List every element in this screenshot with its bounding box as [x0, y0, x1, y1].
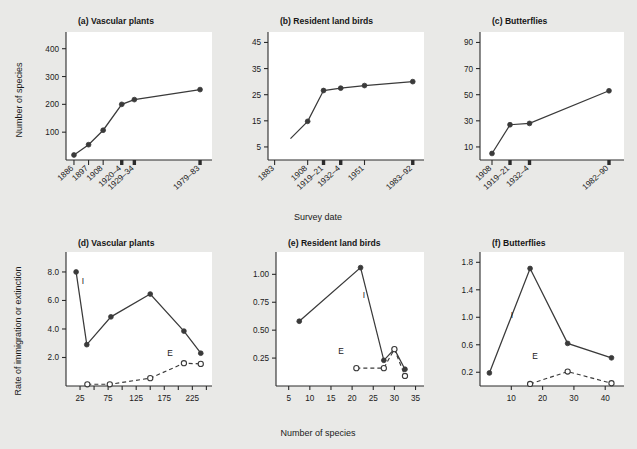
y-tick-label: 0.6: [462, 341, 474, 350]
y-tick-label: 5: [256, 143, 261, 152]
x-tick-label: 40: [601, 394, 611, 403]
data-point: [565, 341, 570, 346]
data-point: [565, 369, 570, 374]
y-tick-label: 0.2: [462, 368, 474, 377]
data-point: [381, 358, 386, 363]
plot-area: [66, 252, 212, 386]
data-point: [527, 121, 532, 126]
x-tick-label: 1983–92: [384, 163, 414, 191]
y-tick-label: 2.0: [48, 353, 60, 362]
y-tick-label: 400: [45, 45, 59, 54]
y-tick-label: 1.00: [253, 270, 269, 279]
data-point: [410, 79, 415, 84]
series-label-I: I: [511, 310, 513, 320]
x-tick-label: 1932–4: [505, 164, 532, 189]
series-label-E: E: [338, 346, 344, 356]
data-point: [148, 292, 153, 297]
data-point: [609, 381, 614, 386]
y-tick-label: 0.25: [253, 354, 269, 363]
figure-canvas: Number of species Rate of immigration or…: [0, 0, 637, 449]
x-tick-label: 125: [129, 394, 143, 403]
data-point: [86, 142, 91, 147]
y-tick-label: 0.50: [253, 326, 269, 335]
y-tick-label: 30: [464, 117, 474, 126]
data-point: [305, 119, 310, 124]
y-tick-label: 70: [464, 65, 474, 74]
data-point: [490, 151, 495, 156]
x-tick-label: 175: [157, 394, 171, 403]
data-point: [198, 361, 203, 366]
panel-title: (d) Vascular plants: [78, 238, 155, 248]
y-tick-label: 10: [464, 143, 474, 152]
data-point: [297, 319, 302, 324]
data-point: [354, 366, 359, 371]
data-point: [528, 266, 533, 271]
plot-area: [480, 252, 624, 386]
x-tick-label: 75: [104, 394, 114, 403]
panel-c-butterflies: (c) Butterflies103050709019081919–211932…: [440, 14, 637, 219]
data-point: [107, 382, 112, 387]
data-point: [181, 361, 186, 366]
data-point: [119, 102, 124, 107]
x-tick-label: 25: [75, 394, 85, 403]
y-tick-label: 0.75: [253, 298, 269, 307]
series-label-E: E: [532, 351, 538, 361]
data-point: [109, 314, 114, 319]
data-point: [358, 265, 363, 270]
data-point: [198, 351, 203, 356]
y-tick-label: 300: [45, 73, 59, 82]
data-point: [392, 347, 397, 352]
data-point: [527, 381, 532, 386]
data-point: [487, 371, 492, 376]
x-tick-label: 1982–90: [581, 163, 611, 191]
ylabel-bottom-row: Rate of immigration or extinction: [4, 250, 20, 410]
ylabel-top-row: Number of species: [4, 40, 20, 170]
data-point: [321, 88, 326, 93]
y-tick-label: 1.8: [462, 258, 474, 267]
panel-title: (c) Butterflies: [492, 16, 548, 26]
data-point: [101, 128, 106, 133]
y-tick-label: 15: [252, 117, 262, 126]
x-tick-label: 1883: [256, 164, 276, 183]
x-tick-label: 15: [326, 394, 336, 403]
data-point: [607, 88, 612, 93]
y-tick-label: 8.0: [48, 268, 60, 277]
x-tick-label: 20: [348, 394, 358, 403]
panel-title: (b) Resident land birds: [280, 16, 373, 26]
x-tick-label: 25: [369, 394, 379, 403]
plot-area: [268, 32, 424, 160]
x-tick-label: 225: [186, 394, 200, 403]
series-label-I: I: [363, 290, 365, 300]
x-tick-label: 35: [411, 394, 421, 403]
data-point: [72, 153, 77, 158]
panel-title: (f) Butterflies: [492, 238, 546, 248]
x-tick-label: 30: [390, 394, 400, 403]
y-tick-label: 1.4: [462, 286, 474, 295]
panel-title: (e) Resident land birds: [288, 238, 381, 248]
data-point: [338, 86, 343, 91]
data-point: [381, 366, 386, 371]
data-point: [74, 270, 79, 275]
data-point: [85, 382, 90, 387]
x-tick-label: 1979–83: [172, 163, 202, 191]
y-tick-label: 45: [252, 38, 262, 47]
data-point: [148, 376, 153, 381]
panel-f-butterflies-rates: (f) Butterflies0.20.61.01.41.810203040IE: [440, 236, 637, 431]
data-point: [508, 122, 513, 127]
panel-a-vascular-plants: (a) Vascular plants100200300400188618971…: [20, 14, 220, 219]
data-point: [362, 83, 367, 88]
y-tick-label: 4.0: [48, 325, 60, 334]
panel-b-resident-land-birds: (b) Resident land birds51525354518831908…: [228, 14, 434, 219]
x-tick-label: 10: [507, 394, 517, 403]
y-tick-label: 1.0: [462, 313, 474, 322]
y-tick-label: 100: [45, 128, 59, 137]
panel-d-vascular-plants-rates: (d) Vascular plants2.04.06.08.0257512517…: [20, 236, 220, 431]
series-label-E: E: [167, 348, 173, 358]
y-tick-label: 90: [464, 38, 474, 47]
x-tick-label: 30: [569, 394, 579, 403]
x-tick-label: 5: [286, 394, 291, 403]
panel-title: (a) Vascular plants: [78, 16, 154, 26]
y-tick-label: 6.0: [48, 296, 60, 305]
data-point: [198, 87, 203, 92]
y-tick-label: 35: [252, 65, 262, 74]
